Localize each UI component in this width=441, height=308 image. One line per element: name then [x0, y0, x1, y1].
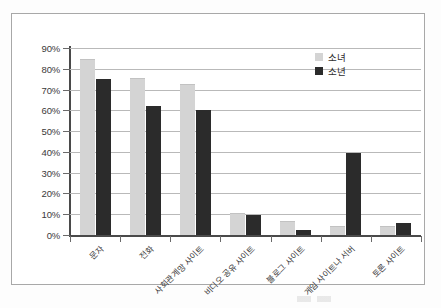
y-axis-tick: [63, 110, 70, 111]
y-axis-tick: [63, 48, 70, 49]
bar-boys[interactable]: [396, 223, 411, 235]
bar-boys[interactable]: [196, 110, 211, 235]
y-axis-tick-label: 30%: [12, 167, 60, 178]
x-axis-line: [69, 235, 421, 237]
y-axis-tick: [63, 193, 70, 194]
y-axis-tick: [63, 131, 70, 132]
y-axis-tick-label: 0%: [12, 230, 60, 241]
x-axis-tick: [70, 236, 71, 242]
scan-artifact: [297, 296, 357, 302]
legend-item-girls: 소녀: [315, 50, 389, 64]
y-axis-tick-label: 60%: [12, 105, 60, 116]
chart-plot-frame: 소녀 소년 0%10%20%30%40%50%60%70%80%90%문자전화사…: [11, 13, 425, 285]
bar-group: [120, 48, 170, 235]
bar-girls[interactable]: [380, 226, 395, 235]
y-axis-tick: [63, 173, 70, 174]
legend-label-girls: 소녀: [328, 50, 346, 64]
bar-girls[interactable]: [180, 84, 195, 235]
y-axis-tick-label: 20%: [12, 188, 60, 199]
bar-girls[interactable]: [230, 213, 245, 235]
legend-swatch-boys-icon: [315, 67, 323, 75]
bar-boys[interactable]: [146, 106, 161, 235]
bar-boys[interactable]: [246, 215, 261, 235]
legend-swatch-girls-icon: [315, 53, 323, 61]
bar-group: [220, 48, 270, 235]
bar-girls[interactable]: [80, 59, 95, 235]
x-axis-tick: [170, 236, 171, 242]
bar-girls[interactable]: [130, 78, 145, 235]
y-axis-tick-label: 90%: [12, 43, 60, 54]
y-axis-tick: [63, 214, 70, 215]
x-axis-tick: [120, 236, 121, 242]
bar-group: [170, 48, 220, 235]
bar-boys[interactable]: [96, 79, 111, 235]
chart-legend: 소녀 소년: [315, 50, 389, 78]
bar-girls[interactable]: [330, 226, 345, 235]
bar-girls[interactable]: [280, 221, 295, 236]
y-axis-tick: [63, 90, 70, 91]
x-axis-tick: [220, 236, 221, 242]
y-axis-tick: [63, 69, 70, 70]
y-axis-tick: [63, 152, 70, 153]
y-axis-tick-label: 40%: [12, 146, 60, 157]
chart-figure: 소녀 소년 0%10%20%30%40%50%60%70%80%90%문자전화사…: [0, 0, 441, 308]
bar-boys[interactable]: [296, 230, 311, 235]
legend-item-boys: 소년: [315, 64, 389, 78]
y-axis-tick-label: 80%: [12, 63, 60, 74]
x-axis-tick: [271, 236, 272, 242]
y-axis-tick-label: 10%: [12, 209, 60, 220]
x-axis-tick: [371, 236, 372, 242]
y-axis-tick: [63, 235, 70, 236]
bar-boys[interactable]: [346, 153, 361, 235]
legend-label-boys: 소년: [328, 64, 346, 78]
bar-group: [271, 48, 321, 235]
bar-group: [70, 48, 120, 235]
x-axis-tick: [321, 236, 322, 242]
y-axis-tick-label: 50%: [12, 126, 60, 137]
y-axis-tick-label: 70%: [12, 84, 60, 95]
x-axis-tick: [421, 236, 422, 242]
